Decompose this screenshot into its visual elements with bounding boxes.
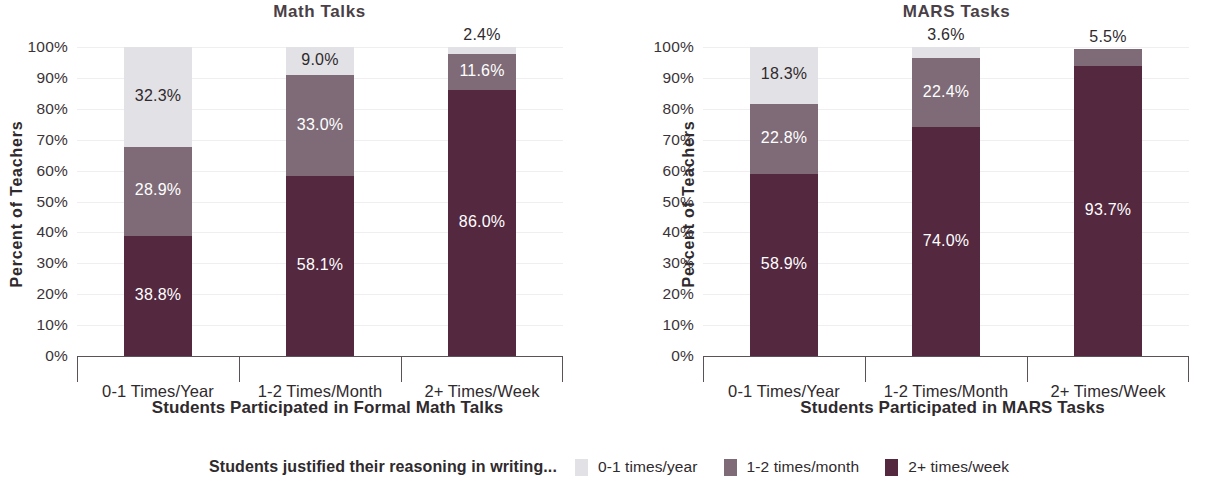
x-axis-end-cap — [77, 356, 78, 382]
y-axis-tick-label: 100% — [654, 38, 694, 56]
y-axis-tick-label: 20% — [662, 285, 694, 303]
stacked-bar[interactable]: 58.9%22.8%18.3% — [750, 47, 818, 356]
y-axis-tick-label: 90% — [36, 69, 68, 87]
bar-segment-value-label: 9.0% — [286, 52, 354, 68]
bar-segment-value-label: 11.6% — [448, 63, 516, 79]
legend-swatch-icon — [885, 459, 898, 476]
y-axis-tick-label: 30% — [662, 254, 694, 272]
chart-title-mars-tasks: MARS Tasks — [609, 2, 1218, 22]
x-axis-end-cap — [562, 356, 563, 382]
bar-segment[interactable]: 33.0% — [286, 75, 354, 177]
bar-segment[interactable]: 28.9% — [124, 147, 192, 236]
y-axis-tick-label: 70% — [662, 131, 694, 149]
bar-segment-value-label: 5.5% — [1074, 29, 1142, 45]
bar-segment-value-label: 86.0% — [448, 214, 516, 230]
x-axis-category-tick — [239, 356, 240, 382]
x-axis-line-left — [77, 356, 563, 357]
y-axis-tick-label: 50% — [662, 193, 694, 211]
legend-items: 0-1 times/year1-2 times/month2+ times/we… — [575, 458, 1009, 476]
stacked-bar[interactable]: 86.0%11.6%2.4% — [448, 47, 516, 356]
bar-segment[interactable]: 5.5% — [1074, 49, 1142, 66]
bar-segment-value-label: 28.9% — [124, 182, 192, 198]
bar-segment[interactable]: 32.3% — [124, 47, 192, 147]
plot-area-mars-tasks: 0%10%20%30%40%50%60%70%80%90%100% 58.9%2… — [703, 47, 1189, 356]
y-axis-tick-label: 0% — [671, 347, 694, 365]
y-axis-tick-label: 10% — [36, 316, 68, 334]
x-axis-category-tick — [865, 356, 866, 382]
bar-segment[interactable]: 86.0% — [448, 90, 516, 356]
plot-area-math-talks: 0%10%20%30%40%50%60%70%80%90%100% 38.8%2… — [77, 47, 563, 356]
x-axis-title-right: Students Participated in MARS Tasks — [609, 398, 1218, 418]
bar-segment[interactable]: 3.6% — [912, 47, 980, 58]
y-axis-title-left: Percent of Teachers — [8, 74, 26, 334]
y-axis-tick-label: 80% — [662, 100, 694, 118]
bar-segment[interactable]: 2.4% — [448, 47, 516, 54]
x-axis-category-tick — [401, 356, 402, 382]
legend-swatch-icon — [724, 459, 737, 476]
stacked-bar[interactable]: 58.1%33.0%9.0% — [286, 47, 354, 356]
legend-item[interactable]: 1-2 times/month — [724, 458, 860, 476]
legend-item-label: 2+ times/week — [908, 458, 1009, 476]
legend-item-label: 1-2 times/month — [747, 458, 860, 476]
bar-segment[interactable]: 11.6% — [448, 54, 516, 90]
x-axis-category-tick — [1027, 356, 1028, 382]
bar-group-right: 58.9%22.8%18.3%74.0%22.4%3.6%93.7%5.5% — [703, 47, 1189, 356]
bar-segment[interactable]: 74.0% — [912, 127, 980, 356]
bar-segment-value-label: 22.4% — [912, 84, 980, 100]
x-axis-end-cap — [1188, 356, 1189, 382]
bar-segment-value-label: 3.6% — [912, 27, 980, 43]
chart-panels: Math Talks Percent of Teachers 0%10%20%3… — [0, 0, 1218, 440]
y-axis-tick-label: 100% — [28, 38, 68, 56]
legend-item-label: 0-1 times/year — [598, 458, 698, 476]
bar-segment[interactable]: 18.3% — [750, 47, 818, 104]
bar-segment-value-label: 2.4% — [448, 27, 516, 43]
bar-segment-value-label: 93.7% — [1074, 202, 1142, 218]
bar-segment[interactable]: 58.1% — [286, 176, 354, 356]
y-axis-tick-label: 60% — [36, 162, 68, 180]
y-axis-tick-label: 10% — [662, 316, 694, 334]
bar-segment[interactable]: 38.8% — [124, 236, 192, 356]
bar-segment[interactable]: 58.9% — [750, 174, 818, 356]
stacked-bar[interactable]: 74.0%22.4%3.6% — [912, 47, 980, 356]
bar-segment[interactable]: 9.0% — [286, 47, 354, 75]
y-axis-tick-label: 30% — [36, 254, 68, 272]
bar-segment-value-label: 38.8% — [124, 287, 192, 303]
bar-group-left: 38.8%28.9%32.3%58.1%33.0%9.0%86.0%11.6%2… — [77, 47, 563, 356]
y-axis-tick-label: 80% — [36, 100, 68, 118]
legend-swatch-icon — [575, 459, 588, 476]
x-axis-line-right — [703, 356, 1189, 357]
y-axis-tick-label: 60% — [662, 162, 694, 180]
legend-caption: Students justified their reasoning in wr… — [209, 458, 557, 476]
y-axis-tick-label: 0% — [45, 347, 68, 365]
stacked-bar[interactable]: 93.7%5.5% — [1074, 47, 1142, 356]
bar-segment[interactable]: 93.7% — [1074, 66, 1142, 356]
x-axis-title-left: Students Participated in Formal Math Tal… — [0, 398, 609, 418]
y-axis-tick-label: 20% — [36, 285, 68, 303]
chart-title-math-talks: Math Talks — [0, 2, 609, 22]
bar-segment-value-label: 18.3% — [750, 66, 818, 82]
chart-panel-mars-tasks: MARS Tasks Percent of Teachers 0%10%20%3… — [609, 0, 1218, 440]
x-axis-end-cap — [703, 356, 704, 382]
bar-segment[interactable]: 22.8% — [750, 104, 818, 174]
y-axis-tick-label: 40% — [36, 223, 68, 241]
y-axis-tick-label: 50% — [36, 193, 68, 211]
chart-legend: Students justified their reasoning in wr… — [0, 452, 1218, 482]
legend-item[interactable]: 0-1 times/year — [575, 458, 698, 476]
y-axis-tick-label: 70% — [36, 131, 68, 149]
bar-segment-value-label: 74.0% — [912, 233, 980, 249]
bar-segment-value-label: 58.1% — [286, 257, 354, 273]
y-axis-tick-label: 40% — [662, 223, 694, 241]
bar-segment-value-label: 32.3% — [124, 88, 192, 104]
chart-panel-math-talks: Math Talks Percent of Teachers 0%10%20%3… — [0, 0, 609, 440]
bar-segment[interactable]: 22.4% — [912, 58, 980, 127]
bar-segment-value-label: 22.8% — [750, 130, 818, 146]
legend-item[interactable]: 2+ times/week — [885, 458, 1009, 476]
stacked-bar[interactable]: 38.8%28.9%32.3% — [124, 47, 192, 356]
y-axis-tick-label: 90% — [662, 69, 694, 87]
stacked-bar-figure: Math Talks Percent of Teachers 0%10%20%3… — [0, 0, 1218, 487]
bar-segment-value-label: 33.0% — [286, 117, 354, 133]
bar-segment-value-label: 58.9% — [750, 256, 818, 272]
